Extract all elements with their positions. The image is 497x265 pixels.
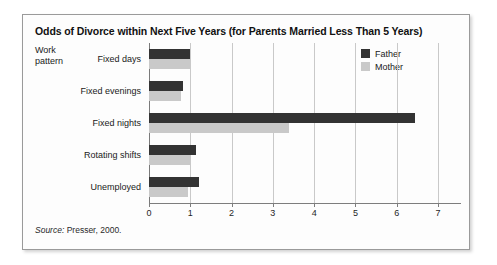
category-label-fixed-evenings: Fixed evenings [41, 86, 141, 96]
category-label-fixed-days: Fixed days [41, 54, 141, 64]
bar-mother-rotating-shifts [149, 155, 190, 165]
x-tick-5 [355, 203, 356, 207]
bar-mother-unemployed [149, 187, 188, 197]
category-row: Rotating shifts [149, 139, 438, 171]
bar-mother-fixed-nights [149, 123, 289, 133]
gridline-7 [438, 43, 439, 203]
category-row: Fixed nights [149, 107, 438, 139]
x-tick-0 [149, 203, 150, 207]
bar-father-rotating-shifts [149, 145, 196, 155]
bar-mother-fixed-days [149, 59, 190, 69]
category-label-fixed-nights: Fixed nights [41, 118, 141, 128]
x-tick-label-2: 2 [222, 208, 242, 218]
figure-frame: Odds of Divorce within Next Five Years (… [22, 14, 470, 250]
x-axis-line [149, 203, 461, 204]
x-tick-3 [273, 203, 274, 207]
category-row: Fixed days [149, 43, 438, 75]
bar-father-fixed-evenings [149, 81, 183, 91]
category-row: Fixed evenings [149, 75, 438, 107]
x-tick-label-7: 7 [428, 208, 448, 218]
x-tick-2 [232, 203, 233, 207]
x-tick-label-5: 5 [345, 208, 365, 218]
bar-father-unemployed [149, 177, 199, 187]
bar-father-fixed-days [149, 49, 190, 59]
x-tick-4 [314, 203, 315, 207]
chart-title: Odds of Divorce within Next Five Years (… [35, 25, 465, 37]
category-row: Unemployed [149, 171, 438, 203]
x-tick-label-3: 3 [263, 208, 283, 218]
x-tick-label-0: 0 [139, 208, 159, 218]
bar-mother-fixed-evenings [149, 91, 181, 101]
category-label-rotating-shifts: Rotating shifts [41, 150, 141, 160]
x-tick-7 [438, 203, 439, 207]
x-tick-label-6: 6 [387, 208, 407, 218]
x-tick-label-1: 1 [180, 208, 200, 218]
bar-father-fixed-nights [149, 113, 415, 123]
source-citation: Presser, 2000. [64, 225, 121, 235]
source-keyword: Source: [35, 225, 64, 235]
category-label-unemployed: Unemployed [41, 182, 141, 192]
plot-area: Fixed daysFixed eveningsFixed nightsRota… [149, 43, 438, 203]
x-tick-1 [190, 203, 191, 207]
x-tick-label-4: 4 [304, 208, 324, 218]
source-note: Source: Presser, 2000. [35, 225, 121, 235]
x-tick-6 [397, 203, 398, 207]
